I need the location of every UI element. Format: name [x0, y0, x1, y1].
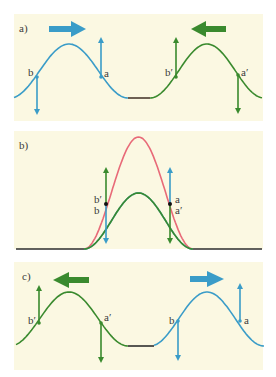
panel-a-label: a): [19, 22, 28, 35]
point-a-a-prime: [168, 202, 172, 206]
label-b-prime: b′: [28, 314, 36, 326]
panel-a: a) b a b′ a′: [14, 14, 263, 121]
label-b-prime: b′: [165, 66, 173, 78]
panel-c-label: c): [22, 270, 31, 283]
label-a: a: [104, 67, 109, 79]
point-a-prime: [99, 321, 103, 325]
label-a: a: [244, 314, 249, 326]
label-a-prime: a′: [241, 66, 248, 78]
panel-b: b) b′ b a a′: [14, 131, 263, 249]
point-b: [35, 75, 39, 79]
point-a: [99, 75, 103, 79]
point-a-prime: [236, 73, 240, 77]
panel-c-background: [14, 262, 263, 370]
label-a-prime: a′: [104, 311, 111, 323]
label-a-prime: a′: [175, 204, 182, 216]
label-b: b: [94, 204, 100, 216]
panel-b-label: b): [19, 139, 29, 152]
label-b: b: [28, 66, 34, 78]
point-b-b-prime: [104, 202, 108, 206]
point-b-prime: [37, 321, 41, 325]
point-b-prime: [174, 75, 178, 79]
panel-b-background: [14, 131, 263, 249]
point-b: [176, 319, 180, 323]
label-b: b: [169, 314, 175, 326]
panel-c: c) b′ a′ b a: [14, 262, 264, 370]
point-a: [238, 319, 242, 323]
wave-superposition-diagram: a) b a b′ a′ b): [0, 0, 276, 377]
